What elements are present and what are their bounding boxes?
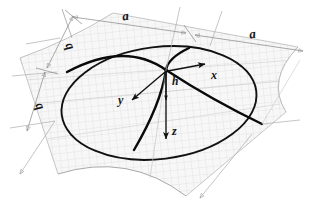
dim-label-a-top: a	[121, 8, 130, 24]
diagram-canvas: a a b b x y z h	[0, 0, 313, 214]
dim-label-a-right: a	[248, 26, 257, 42]
ext-line-left-top	[62, 9, 72, 38]
dome-geometry-figure: a a b b x y z h	[0, 0, 313, 214]
axis-label-z: z	[171, 124, 177, 138]
ext-line-leftedge-1	[26, 38, 60, 44]
tick-a-start	[65, 10, 82, 24]
axis-label-x: x	[210, 68, 217, 82]
measure-label-h: h	[172, 75, 178, 87]
axis-label-y: y	[116, 93, 124, 107]
